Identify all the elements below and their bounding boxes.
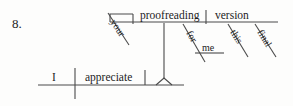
exercise-number: 8.	[12, 16, 22, 31]
gerund-pedestal-tripod	[156, 78, 172, 85]
word-final: final	[255, 27, 274, 49]
word-verb-appreciate: appreciate	[85, 71, 132, 84]
word-subject-i: I	[52, 71, 56, 83]
word-proofreading: proofreading	[140, 9, 200, 22]
sentence-diagram-container: 8. proofreading	[0, 0, 293, 106]
word-your: your	[108, 17, 128, 39]
word-version: version	[215, 9, 249, 21]
sentence-diagram-canvas: 8. proofreading	[0, 0, 293, 106]
word-me: me	[202, 42, 215, 53]
word-this: this	[228, 27, 245, 45]
